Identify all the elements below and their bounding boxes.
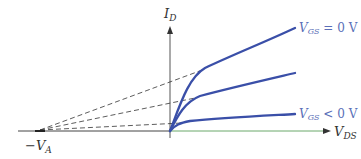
jfet-characteristics-diagram: ID VDS −VA VGS = 0 V VGS < 0 V xyxy=(0,0,361,159)
curve-label-vgs-0: VGS = 0 V xyxy=(299,21,358,36)
curve-label-vgs-neg: VGS < 0 V xyxy=(299,107,358,122)
x-axis-arrow-icon xyxy=(323,128,331,134)
early-voltage-lines xyxy=(40,69,205,130)
dashed-line-top xyxy=(40,69,205,130)
x-axis-label: VDS xyxy=(334,124,357,141)
characteristic-curves xyxy=(170,28,295,131)
early-voltage-label: −VA xyxy=(25,138,52,155)
y-axis-label: ID xyxy=(163,6,176,23)
y-axis-arrow-icon xyxy=(167,26,173,34)
dashed-line-bottom xyxy=(40,123,182,130)
curve-vgs-neg xyxy=(170,114,295,131)
